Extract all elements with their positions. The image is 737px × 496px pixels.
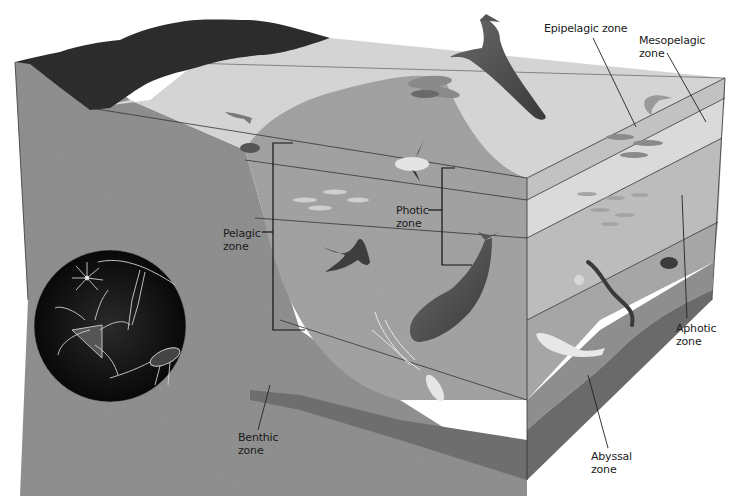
- sea-turtle-icon: [240, 143, 260, 153]
- epipelagic-zone-label: Epipelagic zone: [544, 22, 627, 35]
- abyssal-zone-label: Abyssal zone: [591, 450, 632, 476]
- pelagic-zone-label: Pelagic zone: [223, 227, 261, 253]
- bioluminescent-lure-icon: [574, 275, 584, 285]
- ocean-zones-illustration: [0, 0, 737, 496]
- benthic-zone-label: Benthic zone: [238, 431, 278, 457]
- plankton-inset: [34, 250, 186, 402]
- photic-zone-label: Photic zone: [396, 204, 429, 230]
- anglerfish-icon: [660, 257, 678, 269]
- aphotic-zone-label: Aphotic zone: [676, 322, 716, 348]
- mesopelagic-zone-label: Mesopelagic zone: [639, 34, 705, 60]
